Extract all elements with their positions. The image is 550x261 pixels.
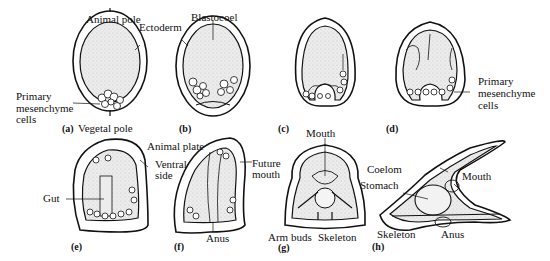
label-pmc-d-2: mesenchyme [478, 88, 535, 99]
embryo-c [296, 18, 356, 106]
panel-label-f: (f) [174, 241, 184, 252]
label-ventral-2: side [155, 170, 173, 181]
label-animal-plate: Animal plate [147, 141, 204, 152]
label-mouth-h: Mouth [462, 171, 491, 182]
panel-label-e: (e) [71, 241, 82, 252]
label-mouth-g: Mouth [306, 128, 335, 139]
embryo-b [176, 16, 250, 116]
label-stomach: Stomach [360, 180, 399, 191]
embryo-d [396, 22, 470, 106]
label-vegetal-pole: Vegetal pole [78, 123, 133, 134]
label-skeleton-g: Skeleton [318, 232, 357, 243]
panel-label-c: (c) [278, 123, 289, 134]
panel-label-b: (b) [179, 123, 191, 134]
label-ectoderm: Ectoderm [139, 22, 182, 33]
label-animal-pole: Animal pole [86, 14, 141, 25]
label-pmc-d-1: Primary [478, 76, 513, 87]
label-pmc-a-3: cells [16, 114, 36, 125]
larva-h [380, 141, 510, 230]
embryo-e [66, 139, 148, 232]
label-skeleton-h: Skeleton [377, 229, 416, 240]
embryo-development-diagram: Animal pole Ectoderm Blastocoel Primary … [0, 0, 550, 261]
panel-label-d: (d) [386, 123, 398, 134]
label-anus-h: Anus [441, 229, 464, 240]
panel-label-h: (h) [372, 241, 384, 252]
label-anus-f: Anus [206, 233, 229, 244]
label-future-mouth-2: mouth [252, 169, 280, 180]
label-gut: Gut [43, 193, 60, 204]
label-pmc-d-3: cells [478, 100, 498, 111]
label-blastocoel: Blastocoel [191, 12, 237, 23]
panel-label-g: (g) [278, 242, 290, 253]
panel-label-a: (a) [62, 123, 74, 134]
label-pmc-a-1: Primary [16, 91, 51, 102]
embryo-f [174, 138, 252, 233]
embryo-g [285, 138, 365, 229]
label-coelom: Coelom [367, 164, 402, 175]
